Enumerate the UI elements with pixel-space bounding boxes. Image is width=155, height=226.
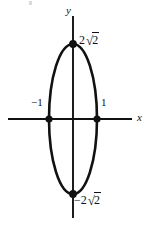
point-y-vertex-top [69, 40, 77, 48]
ellipse-figure: y x −1 1 2√2 −2√2 [0, 0, 155, 226]
sqrt-expression-bottom: √2 [87, 193, 101, 206]
scan-artifact-speck [29, 1, 32, 5]
y-vertex-top-radicand: 2 [92, 32, 99, 47]
y-vertex-label-bottom: −2√2 [74, 193, 101, 206]
point-x-intercept-positive [93, 115, 100, 122]
x-axis-label: x [137, 112, 142, 123]
y-vertex-bottom-sign: − [74, 193, 81, 207]
y-vertex-label-top: 2√2 [79, 33, 99, 46]
x-tick-label-negative-one: −1 [31, 97, 43, 108]
x-tick-label-positive-one: 1 [101, 97, 107, 108]
sqrt-expression-top: √2 [85, 33, 99, 46]
y-axis-label: y [66, 5, 71, 16]
point-x-intercept-negative [45, 115, 52, 122]
y-vertex-bottom-radicand: 2 [94, 192, 101, 207]
